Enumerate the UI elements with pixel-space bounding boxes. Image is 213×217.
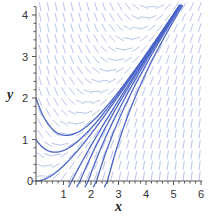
y-tick-label: 1 <box>22 134 28 146</box>
slope-segment <box>78 151 83 158</box>
slope-segment <box>52 154 60 155</box>
slope-segment <box>70 56 73 64</box>
slope-segment <box>140 5 148 8</box>
slope-segment <box>110 3 114 11</box>
slope-segment <box>47 56 49 64</box>
slope-segment <box>143 119 145 127</box>
slope-segment <box>44 165 52 166</box>
slope-segment <box>63 13 65 21</box>
slope-segment <box>47 66 49 74</box>
slope-segment <box>39 87 42 95</box>
slope-segment <box>127 161 129 169</box>
slope-segment <box>79 24 82 32</box>
slope-segment <box>191 87 193 95</box>
slope-segment <box>117 78 123 84</box>
x-tick-label: 2 <box>88 188 94 200</box>
slope-segment <box>191 108 192 116</box>
slope-segment <box>61 110 67 116</box>
slope-segment <box>68 111 75 115</box>
slope-segment <box>157 15 163 20</box>
slope-segment <box>70 162 75 169</box>
slope-segment <box>158 66 161 74</box>
slope-segment <box>174 45 177 53</box>
slope-segment <box>109 35 115 41</box>
slope-segment <box>78 45 81 53</box>
slope-segment <box>119 151 121 159</box>
slope-segment <box>111 172 113 180</box>
slope-segment <box>175 108 177 116</box>
slope-segment <box>108 79 115 83</box>
slope-segment <box>166 66 169 74</box>
slope-segment <box>199 77 201 85</box>
slope-segment <box>199 66 201 74</box>
slope-segment <box>143 172 144 180</box>
slope-segment <box>55 56 57 64</box>
slope-segment <box>127 130 129 138</box>
slope-segment <box>167 87 169 95</box>
slope-segment <box>60 153 67 157</box>
slope-segment <box>44 154 52 156</box>
slope-segment <box>199 172 200 180</box>
slope-segment <box>190 34 192 42</box>
x-tick-label: 0 <box>27 175 33 187</box>
slope-segment <box>151 161 152 169</box>
slope-segment <box>76 100 84 104</box>
slope-segment <box>175 77 177 85</box>
slope-segment <box>190 3 193 11</box>
slope-segment <box>71 34 74 42</box>
slope-segment <box>116 36 123 40</box>
slope-segment <box>63 34 65 42</box>
slope-segment <box>167 77 169 85</box>
x-tick-label: 1 <box>60 188 66 200</box>
slope-segment <box>159 140 161 148</box>
slope-segment <box>166 35 170 43</box>
slope-segment <box>191 151 192 159</box>
slope-segment <box>151 140 153 148</box>
slope-segment <box>47 45 49 53</box>
slope-segment <box>62 88 66 95</box>
slope-segment <box>108 70 116 71</box>
slope-segment <box>86 141 91 148</box>
slope-segment <box>135 140 137 148</box>
slope-segment <box>183 87 185 95</box>
slope-segment <box>174 56 176 64</box>
slope-segment <box>199 108 200 116</box>
slope-segment <box>47 13 49 21</box>
slope-segment <box>157 25 162 32</box>
x-tick-label: 6 <box>198 188 204 200</box>
slope-segment <box>151 151 153 159</box>
slope-segment <box>86 45 90 52</box>
slope-segment <box>94 24 97 32</box>
slope-segment <box>54 98 58 105</box>
slope-segment <box>38 130 43 137</box>
slope-segment <box>63 56 66 64</box>
slope-segment <box>117 14 122 21</box>
slope-segment <box>63 24 65 32</box>
slope-segment <box>116 68 123 72</box>
slope-segment <box>167 130 169 138</box>
slope-segment <box>93 110 100 115</box>
slope-segment <box>133 57 139 63</box>
slope-segment <box>133 4 139 9</box>
slope-segment <box>127 140 129 148</box>
slope-segment <box>142 87 145 95</box>
slope-segment <box>158 56 161 64</box>
slope-segment <box>167 119 169 127</box>
slope-segment <box>55 3 57 11</box>
slope-segment <box>87 24 90 32</box>
slope-segment <box>134 109 137 117</box>
slope-segment <box>167 172 168 180</box>
slope-segment <box>174 35 177 43</box>
y-axis-label: y <box>5 87 14 102</box>
slope-segment <box>141 46 147 52</box>
solution-curve <box>36 5 180 152</box>
slope-segment <box>183 130 184 138</box>
slope-segment <box>63 45 65 53</box>
slope-segment <box>77 141 83 147</box>
slope-segment <box>182 45 184 53</box>
slope-segment <box>52 143 60 145</box>
slope-segment <box>71 13 73 21</box>
slope-segment <box>78 67 82 74</box>
slope-segment <box>95 3 98 11</box>
slope-segment <box>69 88 74 95</box>
